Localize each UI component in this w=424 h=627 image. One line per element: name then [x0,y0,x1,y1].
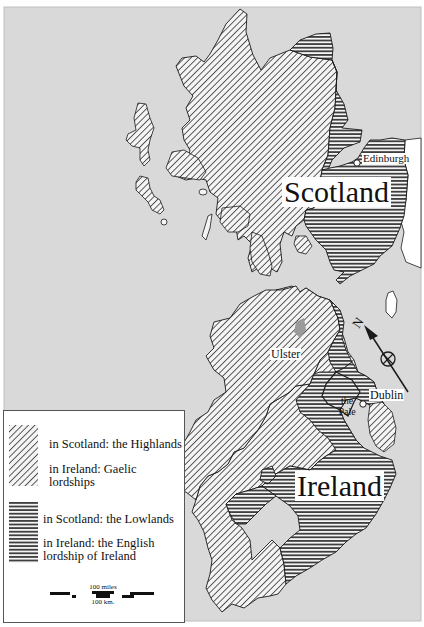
small-isle [199,189,207,195]
ulster-label: Ulster [270,348,301,360]
scale-miles-label: 100 miles [83,583,123,591]
edinburgh-label: Edinburgh [362,153,410,164]
legend-item-english-lordship-line2: lordship of Ireland [43,550,136,563]
edinburgh-marker [354,160,360,166]
dublin-label: Dublin [369,389,404,401]
legend-item-highlands: in Scotland: the Highlands [49,438,182,451]
legend-swatch-diagonal [9,425,38,486]
legend-item-lowlands: in Scotland: the Lowlands [43,513,174,526]
pale-label-line1: the [336,395,358,406]
dublin-marker [360,401,366,407]
scotland-label: Scotland [282,177,391,207]
pale-label: the Pale [336,395,358,417]
small-isle [161,219,167,225]
legend-item-gaelic: in Ireland: Gaelic lordships [49,463,184,489]
legend-swatch-horizontal [9,502,38,563]
ireland-label: Ireland [295,471,384,501]
scale-bar: 100 miles 100 km. [48,583,158,613]
pale-label-line2: Pale [336,406,358,417]
scale-km-label: 100 km. [83,598,123,606]
